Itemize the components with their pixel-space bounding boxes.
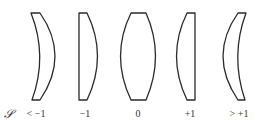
shape-factor-symbol: 𝒮 — [4, 107, 17, 121]
lens-meniscus-negative — [31, 13, 55, 100]
label-meniscus-positive: > +1 — [230, 108, 249, 119]
label-plano-convex-flat-right: +1 — [185, 108, 196, 119]
lens-meniscus-positive — [223, 13, 246, 100]
lens-shape-diagram: 𝒮 < −1 −1 0 +1 > +1 — [0, 0, 260, 123]
lens-plano-convex-flat-right — [177, 13, 196, 100]
lens-biconvex — [121, 13, 156, 100]
label-meniscus-negative: < −1 — [27, 108, 46, 119]
label-plano-convex-flat-left: −1 — [80, 108, 91, 119]
lens-plano-convex-flat-left — [79, 13, 98, 100]
label-biconvex: 0 — [136, 108, 141, 119]
